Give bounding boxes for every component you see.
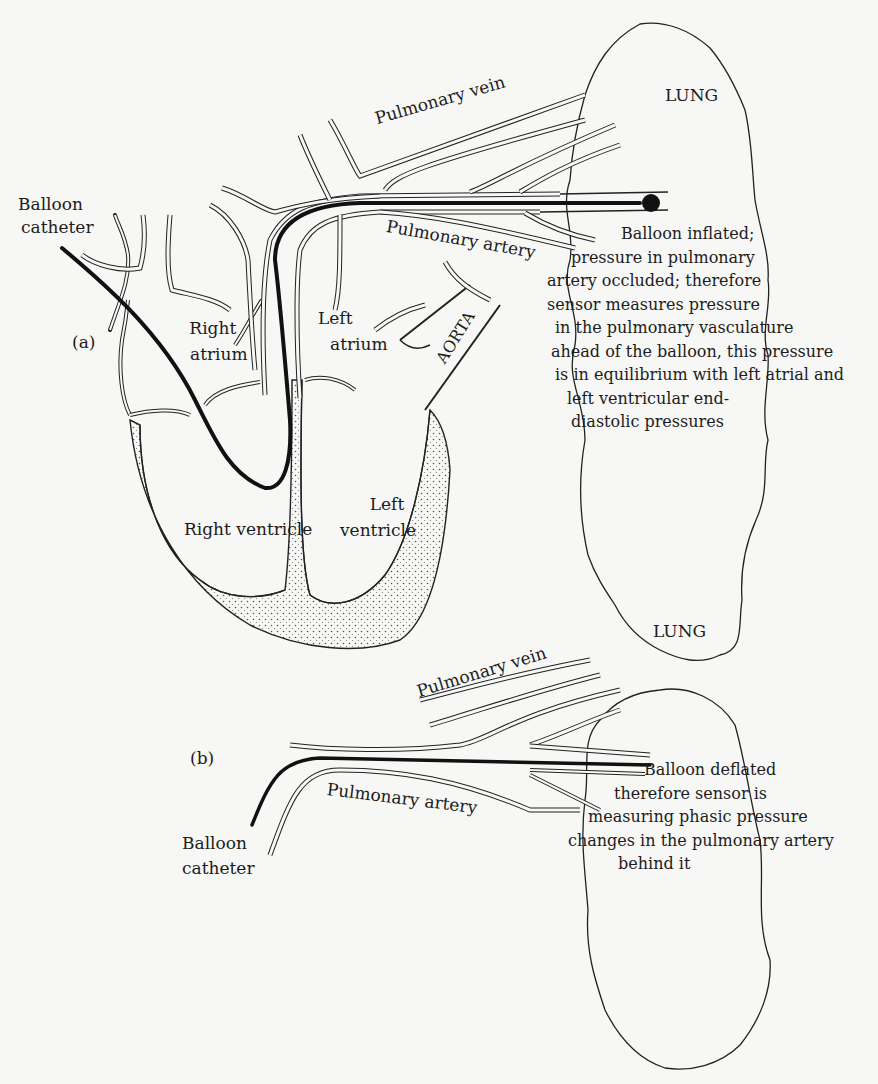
balloon-catheter-label-a: Balloon catheter	[18, 196, 94, 237]
note-line: left ventricular end-	[567, 387, 877, 411]
label-line: atrium	[330, 336, 388, 354]
note-line: diastolic pressures	[571, 410, 877, 434]
label-line: Balloon	[18, 196, 94, 214]
note-line: measuring phasic pressure	[588, 805, 878, 829]
balloon-inflated-note: Balloon inflated; pressure in pulmonary …	[547, 222, 877, 434]
heart-catheter-diagram	[0, 0, 878, 1084]
left-atrium-label: Left atrium	[318, 310, 388, 354]
right-atrium-label: Right atrium	[178, 320, 248, 364]
note-line: ahead of the balloon, this pressure	[551, 340, 877, 364]
label-line: Right	[178, 320, 248, 338]
note-line: therefore sensor is	[614, 782, 878, 806]
right-ventricle-label: Right ventricle	[184, 521, 312, 539]
label-line: Balloon	[182, 835, 255, 853]
lung-label-b: LUNG	[653, 623, 706, 641]
balloon-inflated	[642, 194, 660, 212]
label-line: atrium	[190, 346, 248, 364]
label-line: ventricle	[340, 522, 416, 540]
note-line: sensor measures pressure	[547, 293, 877, 317]
lung-label-a: LUNG	[665, 87, 718, 105]
label-line: Left	[358, 496, 416, 514]
note-line: Balloon inflated;	[621, 222, 877, 246]
label-line: catheter	[182, 860, 255, 878]
left-ventricle-label: Left ventricle	[340, 496, 416, 540]
label-line: catheter	[21, 219, 94, 237]
note-line: pressure in pulmonary	[571, 246, 877, 270]
note-line: Balloon deflated	[644, 758, 878, 782]
lung-outline-b	[583, 689, 770, 1069]
note-line: in the pulmonary vasculature	[555, 316, 877, 340]
note-line: behind it	[618, 852, 878, 876]
panel-b-marker: (b)	[190, 750, 214, 768]
note-line: artery occluded; therefore	[547, 269, 877, 293]
balloon-catheter-label-b: Balloon catheter	[182, 835, 255, 878]
balloon-deflated-note: Balloon deflated therefore sensor is mea…	[568, 758, 878, 876]
note-line: is in equilibrium with left atrial and	[555, 363, 877, 387]
label-line: Left	[318, 310, 388, 328]
note-line: changes in the pulmonary artery	[568, 829, 878, 853]
panel-a-marker: (a)	[72, 334, 95, 352]
